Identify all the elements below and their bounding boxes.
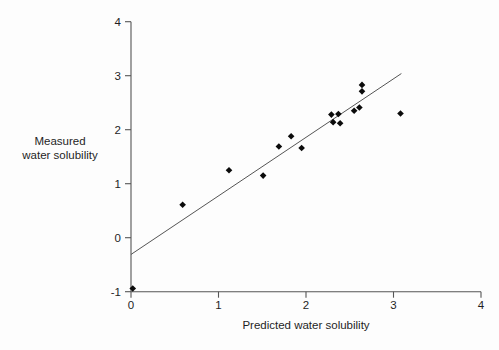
y-tick-label: 1 (115, 178, 121, 190)
data-point (359, 82, 366, 89)
data-point (397, 110, 404, 117)
data-point (337, 120, 344, 127)
data-point (298, 145, 305, 152)
data-point (330, 119, 337, 126)
data-point (351, 108, 358, 115)
data-point (356, 104, 363, 111)
x-tick-label: 4 (478, 299, 485, 311)
x-tick-label: 1 (215, 299, 221, 311)
y-tick-label: 2 (115, 124, 121, 136)
y-tick-label: 0 (115, 232, 121, 244)
data-point (335, 111, 342, 118)
data-point (129, 285, 136, 292)
x-tick-label: 3 (390, 299, 396, 311)
y-tick-label: 3 (115, 70, 121, 82)
x-tick-label: 0 (128, 299, 134, 311)
y-tick-label: -1 (111, 286, 121, 298)
data-point (328, 111, 335, 118)
x-axis-title: Predicted water solubility (131, 319, 481, 331)
x-tick-label: 2 (303, 299, 309, 311)
data-point (288, 133, 295, 140)
scatter-plot: 43210-101234 (0, 0, 499, 350)
data-point (226, 167, 233, 174)
y-tick-label: 4 (115, 16, 122, 28)
data-point (260, 172, 267, 179)
data-point (359, 88, 366, 95)
trend-line (131, 74, 401, 255)
data-point (276, 143, 283, 150)
figure: Measured water solubility 43210-101234 P… (0, 0, 499, 350)
data-point (179, 201, 186, 208)
